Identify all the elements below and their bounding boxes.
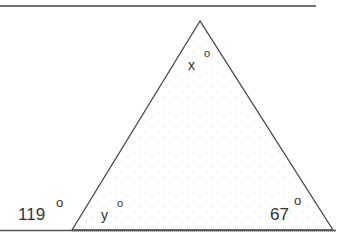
triangle-diagram: x o y o 67 o 119 o xyxy=(0,0,350,234)
label-x: x xyxy=(188,58,195,72)
label-y: y xyxy=(101,208,108,222)
degree-x: o xyxy=(204,48,210,59)
degree-119: o xyxy=(56,196,63,209)
label-67: 67 xyxy=(270,206,289,223)
label-119: 119 xyxy=(18,206,45,223)
degree-67: o xyxy=(294,194,301,207)
degree-y: o xyxy=(117,198,123,209)
